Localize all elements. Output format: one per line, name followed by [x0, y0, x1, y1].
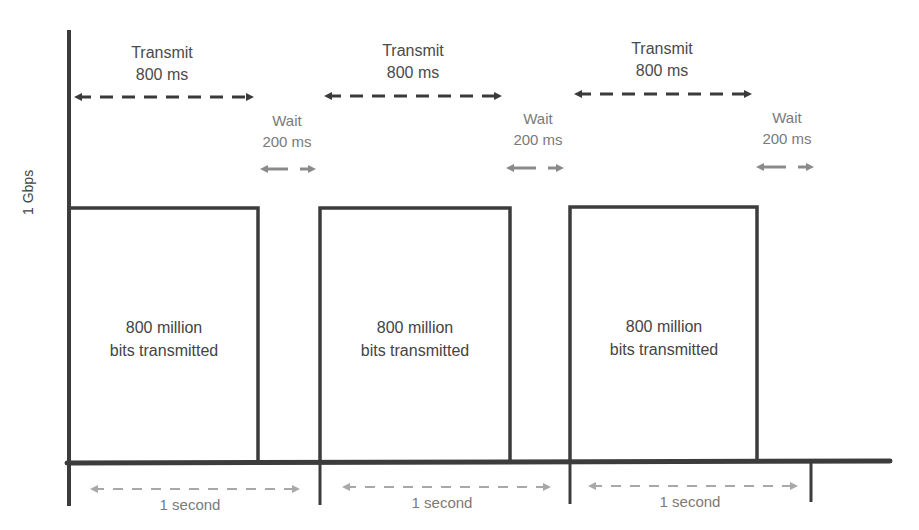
- box-label-1: 800 million bits transmitted: [74, 316, 254, 362]
- transmit-duration: 800 ms: [112, 64, 212, 86]
- box-line-2: bits transmitted: [574, 338, 754, 361]
- box-label-2: 800 million bits transmitted: [325, 316, 505, 362]
- wait-duration: 200 ms: [252, 131, 322, 152]
- box-line-1: 800 million: [74, 316, 254, 339]
- transmit-label-1: Transmit 800 ms: [112, 42, 212, 86]
- transmit-label-3: Transmit 800 ms: [612, 38, 712, 82]
- transmit-label-2: Transmit 800 ms: [363, 40, 463, 84]
- wait-duration: 200 ms: [503, 129, 573, 150]
- transmit-title: Transmit: [112, 42, 212, 64]
- transmit-title: Transmit: [363, 40, 463, 62]
- transmission-timing-diagram: 1 Gbps Transmit 800 ms Transmit 800 ms T…: [0, 0, 919, 530]
- box-line-2: bits transmitted: [325, 339, 505, 362]
- period-label-2: 1 second: [392, 492, 492, 513]
- transmit-duration: 800 ms: [612, 60, 712, 82]
- wait-label-3: Wait 200 ms: [752, 107, 822, 149]
- wait-duration: 200 ms: [752, 128, 822, 149]
- transmit-duration: 800 ms: [363, 62, 463, 84]
- y-axis-label: 1 Gbps: [20, 170, 36, 215]
- box-line-2: bits transmitted: [74, 339, 254, 362]
- box-line-1: 800 million: [574, 315, 754, 338]
- period-label-3: 1 second: [640, 491, 740, 512]
- period-label-1: 1 second: [140, 494, 240, 515]
- transmit-title: Transmit: [612, 38, 712, 60]
- wait-label-2: Wait 200 ms: [503, 108, 573, 150]
- x-axis-baseline: [67, 461, 890, 463]
- wait-title: Wait: [503, 108, 573, 129]
- wait-title: Wait: [252, 110, 322, 131]
- wait-title: Wait: [752, 107, 822, 128]
- box-line-1: 800 million: [325, 316, 505, 339]
- wait-label-1: Wait 200 ms: [252, 110, 322, 152]
- box-label-3: 800 million bits transmitted: [574, 315, 754, 361]
